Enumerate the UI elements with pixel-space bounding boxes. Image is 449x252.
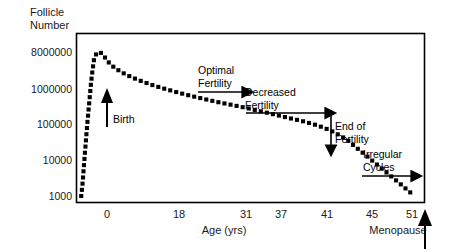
plot-frame [77, 34, 425, 203]
chart-root: Follicle Number 8000000 1000000 100000 1… [0, 0, 449, 252]
menopause-arrow [418, 209, 432, 249]
birth-arrow [101, 88, 113, 127]
chart-canvas [0, 0, 449, 252]
